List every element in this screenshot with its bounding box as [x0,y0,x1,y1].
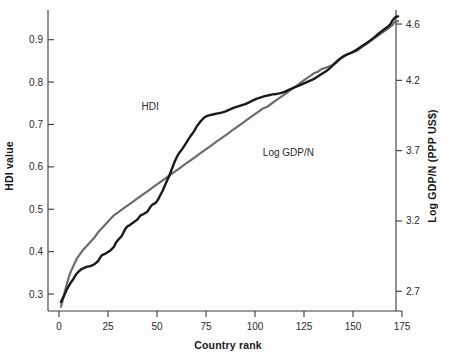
bottom-axis-tick-label: 150 [345,321,362,332]
bottom-axis-tick-label: 175 [394,321,411,332]
bottom-axis-tick-label: 125 [296,321,313,332]
left-axis-tick-label: 0.6 [29,161,43,172]
left-axis-tick-label: 0.4 [29,246,43,257]
bottom-axis-tick-label: 0 [56,321,62,332]
right-axis-tick-label: 4.2 [406,75,420,86]
series-annotation-hdi: HDI [141,101,158,112]
bottom-axis-tick-label: 25 [102,321,114,332]
right-axis-tick-label: 3.7 [406,145,420,156]
chart-figure: 0.30.40.50.60.70.80.9 2.73.23.74.24.6 02… [0,0,449,357]
hdi-gdp-line-chart: 0.30.40.50.60.70.80.9 2.73.23.74.24.6 02… [0,0,449,357]
left-axis-tick-label: 0.5 [29,204,43,215]
bottom-axis-tick-label: 75 [200,321,212,332]
left-axis-tick-label: 0.8 [29,77,43,88]
chart-background [0,0,449,357]
left-axis-tick-label: 0.3 [29,289,43,300]
right-axis-tick-label: 2.7 [406,286,420,297]
left-axis-title: HDI value [3,141,15,191]
left-axis-tick-label: 0.7 [29,119,43,130]
series-annotation-log-gdp-n: Log GDP/N [263,147,314,158]
right-axis-tick-label: 4.6 [406,19,420,30]
bottom-axis-tick-label: 100 [247,321,264,332]
right-axis-tick-label: 3.2 [406,215,420,226]
right-axis-title: Log GDP/N (PPP US$) [426,109,438,222]
bottom-axis-title: Country rank [194,339,262,351]
left-axis-tick-label: 0.9 [29,34,43,45]
bottom-axis-tick-label: 50 [151,321,163,332]
